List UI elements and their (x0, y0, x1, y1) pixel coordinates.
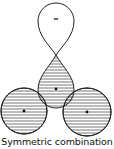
center-nucleus-dot (55, 88, 58, 91)
top-lobe (38, 3, 74, 55)
left-nucleus-dot (23, 110, 26, 113)
symmetric-combination-diagram (0, 0, 114, 149)
right-nucleus-dot (86, 111, 89, 114)
center-lobe (38, 55, 74, 108)
diagram-caption: Symmetric combination (0, 136, 114, 147)
